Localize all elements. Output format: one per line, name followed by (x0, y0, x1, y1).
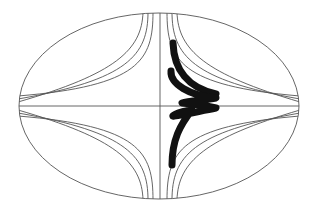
field-line (177, 110, 300, 200)
field-line (18, 113, 148, 200)
field-line (172, 113, 300, 200)
field-lines-lower-left (18, 110, 153, 200)
field-lines-upper-left (18, 12, 153, 102)
field-line (18, 12, 143, 102)
field-line (18, 12, 148, 99)
field-diagram (0, 0, 315, 211)
field-lines-lower-right (167, 110, 300, 200)
diagram-canvas (0, 0, 315, 211)
field-line (18, 110, 143, 200)
